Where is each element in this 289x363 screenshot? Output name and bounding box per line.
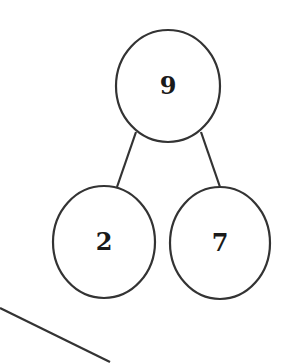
number-bond-diagram: 927 bbox=[0, 0, 289, 363]
part-right-label: 7 bbox=[212, 228, 229, 257]
diagonal-line bbox=[0, 308, 110, 362]
connector-line-right bbox=[201, 132, 220, 187]
part-left-label: 2 bbox=[96, 227, 113, 256]
whole-label: 9 bbox=[160, 71, 177, 100]
connector-line-left bbox=[117, 132, 136, 187]
